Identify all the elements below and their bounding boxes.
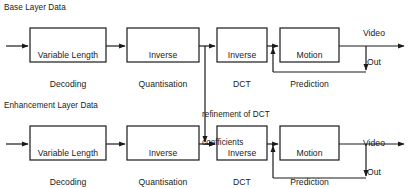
block-enh-inverse-quantisation — [127, 126, 199, 160]
block-enh-inverse-dct — [217, 126, 267, 160]
diagram-canvas: Base Layer Data Enhancement Layer Data r… — [0, 0, 408, 188]
block-base-inverse-dct — [217, 28, 267, 62]
block-base-motion-prediction — [280, 28, 339, 62]
block-base-variable-length-decoding — [30, 28, 106, 62]
block-enh-motion-prediction — [280, 126, 339, 160]
block-base-inverse-quantisation — [127, 28, 199, 62]
diagram-graphics — [0, 0, 408, 188]
block-enh-variable-length-decoding — [30, 126, 106, 160]
